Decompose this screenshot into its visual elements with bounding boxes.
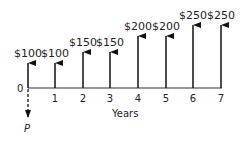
year-tick-label: 3 [107, 93, 113, 104]
cash-flow-amount: $250 [207, 9, 235, 22]
origin-label: 0 [17, 83, 23, 94]
year-tick-label: 5 [163, 93, 169, 104]
cash-flow-amount: $200 [124, 20, 152, 33]
cash-flow-amount: $250 [179, 9, 207, 22]
year-tick-label: 7 [218, 93, 224, 104]
cash-flow-diagram: 0 P Years $100$1001$1502$1503$2004$2005$… [0, 0, 243, 148]
cash-flow-amount: $200 [152, 20, 180, 33]
axis-label: Years [111, 108, 138, 119]
cash-flow-amount: $100 [41, 47, 69, 60]
cash-flow-amount: $150 [69, 36, 97, 49]
year-tick-label: 2 [80, 93, 86, 104]
year-tick-label: 4 [135, 93, 141, 104]
year-tick-label: 1 [52, 93, 58, 104]
cash-flow-amount: $100 [14, 47, 42, 60]
cash-flow-amount: $150 [96, 36, 124, 49]
year-tick-label: 6 [190, 93, 196, 104]
present-value-label: P [24, 123, 31, 134]
